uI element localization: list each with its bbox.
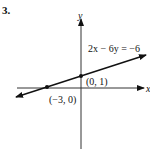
- y-axis-label: y: [78, 11, 82, 21]
- point-0-1: [79, 74, 83, 78]
- graph-figure: 3. y x 2x − 6y = −6 (0, 1) (−3, 0): [0, 0, 150, 149]
- point-neg3-0: [45, 85, 49, 89]
- coordinate-plane: [0, 0, 150, 149]
- point-label-0-1: (0, 1): [86, 77, 108, 87]
- point-label-neg3-0: (−3, 0): [49, 95, 76, 105]
- problem-number: 3.: [2, 4, 10, 16]
- x-axis-label: x: [146, 84, 150, 94]
- equation-label: 2x − 6y = −6: [88, 44, 140, 54]
